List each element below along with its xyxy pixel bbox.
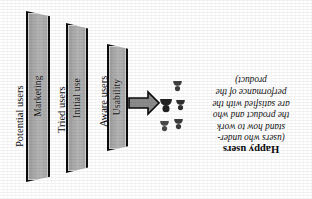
happy-users-description-line: the product and who xyxy=(198,109,304,121)
person-icon xyxy=(159,99,173,113)
funnel-stage-potential-users: Marketing xyxy=(26,11,50,182)
person-icon xyxy=(159,121,170,132)
person-icon xyxy=(172,81,183,92)
happy-users-description-line: performance of the xyxy=(198,85,304,97)
funnel-stage-aware-users: Usability xyxy=(107,44,128,151)
happy-users-description-line: product) xyxy=(198,74,304,86)
happy-users-description-line: stand how to work xyxy=(198,120,304,132)
funnel-stage-label-tried-users: Tried users xyxy=(56,86,67,133)
arrow-left-icon xyxy=(128,90,160,116)
person-icon xyxy=(175,100,186,111)
funnel-stage-tried-users: Initial use xyxy=(66,23,88,173)
funnel-stage-label-aware-users: Aware users xyxy=(98,76,109,127)
happy-users-description-line: (users who under- xyxy=(198,132,304,144)
funnel-filter-label-marketing: Marketing xyxy=(33,76,43,117)
happy-users-description: (users who under- stand how to work the … xyxy=(198,74,304,144)
happy-users-caption: Happy users (users who under- stand how … xyxy=(198,74,304,155)
funnel-stage-label-potential-users: Potential users xyxy=(14,85,25,147)
person-icon xyxy=(173,119,184,130)
happy-users-title: Happy users xyxy=(198,143,304,155)
funnel-filter-label-initial-use: Initial use xyxy=(72,78,82,118)
funnel-diagram: Marketing Potential users Initial use Tr… xyxy=(0,0,312,199)
happy-users-description-line: are satisfied with the xyxy=(198,97,304,109)
funnel-filter-label-usability: Usability xyxy=(113,79,123,116)
